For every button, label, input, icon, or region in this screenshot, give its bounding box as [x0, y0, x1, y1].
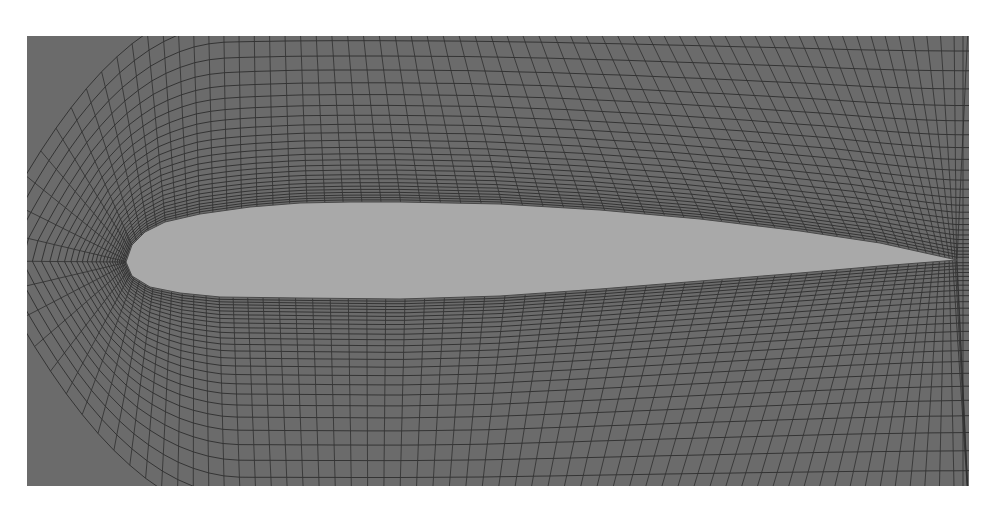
airfoil-mesh-figure — [0, 0, 997, 515]
